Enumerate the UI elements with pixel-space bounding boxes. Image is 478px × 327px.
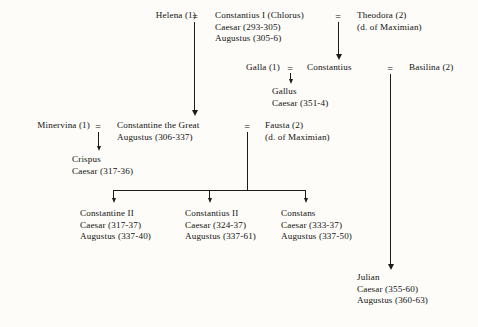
connector-arrow-julian <box>388 264 394 270</box>
connector-arrow-crispus <box>97 146 101 151</box>
person-detail-line: Augustus (305-6) <box>215 33 304 45</box>
person-detail-line: Caesar (355-60) <box>357 284 428 296</box>
marriage-symbol-helena-constantius: = <box>192 12 198 22</box>
person-galla: Galla (1) <box>218 62 280 74</box>
person-fausta: Fausta (2) (d. of Maximian) <box>265 120 330 143</box>
person-gallus: Gallus Caesar (351-4) <box>272 86 328 109</box>
person-name-line: Constantius <box>307 62 352 74</box>
connector-helena-to-constantine <box>194 22 195 112</box>
connector-arrow-constantius <box>336 54 342 60</box>
person-constantine-ii: Constantine II Caesar (317-37) Augustus … <box>80 208 151 243</box>
person-name-line: Theodora (2) <box>357 10 422 22</box>
person-basilina: Basilina (2) <box>409 62 453 74</box>
marriage-symbol-constantius-basilina: = <box>387 64 393 74</box>
person-constantius-ii: Constantius II Caesar (324-37) Augustus … <box>185 208 256 243</box>
person-name-line: Constantius I (Chlorus) <box>215 10 304 22</box>
person-name-line: Minervina (1) <box>14 120 90 132</box>
connector-theodora-to-constantius <box>338 22 339 56</box>
person-constantius-i-chlorus: Constantius I (Chlorus) Caesar (293-305)… <box>215 10 304 45</box>
marriage-symbol-constantine-fausta: = <box>244 122 250 132</box>
person-julian: Julian Caesar (355-60) Augustus (360-63) <box>357 272 428 307</box>
person-theodora: Theodora (2) (d. of Maximian) <box>357 10 422 33</box>
person-name-line: Helena (1) <box>120 10 196 22</box>
person-name-line: Constantius II <box>185 208 256 220</box>
connector-arrow-constantine-ii <box>112 198 116 203</box>
person-detail-line: (d. of Maximian) <box>265 132 330 144</box>
person-constans: Constans Caesar (333-37) Augustus (337-5… <box>281 208 352 243</box>
person-minervina: Minervina (1) <box>14 120 90 132</box>
marriage-symbol-constantius-theodora: = <box>335 12 341 22</box>
person-constantine-the-great: Constantine the Great Augustus (306-337) <box>117 120 199 143</box>
person-detail-line: Augustus (306-337) <box>117 132 199 144</box>
person-detail-line: Augustus (337-40) <box>80 231 151 243</box>
person-detail-line: Caesar (317-36) <box>72 166 133 178</box>
person-detail-line: Caesar (333-37) <box>281 220 352 232</box>
person-detail-line: Augustus (360-63) <box>357 295 428 307</box>
person-detail-line: Caesar (351-4) <box>272 98 328 110</box>
person-name-line: Crispus <box>72 154 133 166</box>
connector-arrow-constans <box>304 198 308 203</box>
person-constantius: Constantius <box>307 62 352 74</box>
person-name-line: Fausta (2) <box>265 120 330 132</box>
person-name-line: Constantine the Great <box>117 120 199 132</box>
connector-arrow-gallus <box>289 79 293 84</box>
person-name-line: Basilina (2) <box>409 62 453 74</box>
person-helena: Helena (1) <box>120 10 196 22</box>
person-name-line: Constantine II <box>80 208 151 220</box>
person-crispus: Crispus Caesar (317-36) <box>72 154 133 177</box>
person-name-line: Constans <box>281 208 352 220</box>
connector-arrow-constantine <box>192 110 198 116</box>
person-detail-line: Augustus (337-61) <box>185 231 256 243</box>
person-detail-line: Caesar (293-305) <box>215 22 304 34</box>
marriage-symbol-minervina-constantine: = <box>95 122 101 132</box>
person-detail-line: Caesar (317-37) <box>80 220 151 232</box>
person-detail-line: Augustus (337-50) <box>281 231 352 243</box>
genealogy-diagram: Helena (1) = Constantius I (Chlorus) Cae… <box>0 0 478 327</box>
connector-basilina-to-julian <box>390 74 391 266</box>
person-name-line: Gallus <box>272 86 328 98</box>
person-detail-line: (d. of Maximian) <box>357 22 422 34</box>
person-name-line: Julian <box>357 272 428 284</box>
person-name-line: Galla (1) <box>218 62 280 74</box>
connector-arrow-constantius-ii <box>208 198 212 203</box>
connector-fausta-to-sons <box>247 132 248 190</box>
person-detail-line: Caesar (324-37) <box>185 220 256 232</box>
